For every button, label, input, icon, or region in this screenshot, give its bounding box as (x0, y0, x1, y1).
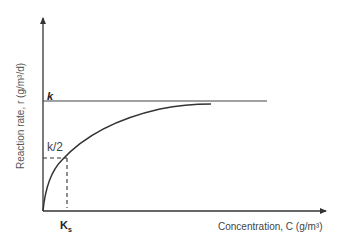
saturation-curve (43, 104, 211, 211)
diagram-canvas (0, 0, 342, 241)
x-axis-label: Concentration, C (g/m³) (218, 221, 322, 232)
saturation-kinetics-diagram: Reaction rate, r (g/m³/d) Concentration,… (0, 0, 342, 241)
k-half-label: k/2 (47, 140, 63, 154)
ks-label-main: K (60, 219, 68, 231)
k-label: k (47, 90, 53, 102)
ks-label-subscript: s (68, 226, 72, 233)
y-axis-label: Reaction rate, r (g/m³/d) (15, 63, 26, 169)
ks-label: Ks (60, 219, 72, 233)
